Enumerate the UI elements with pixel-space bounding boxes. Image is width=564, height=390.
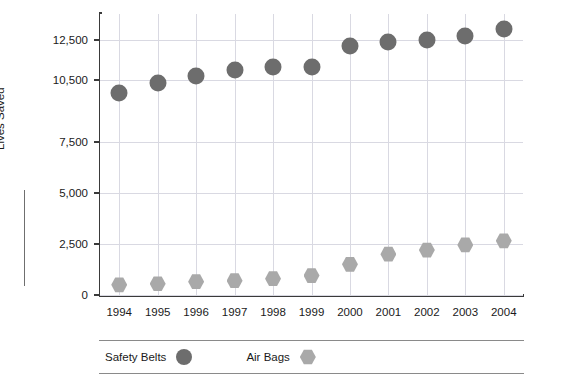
y-tick-label: 0 (0, 289, 88, 301)
y-tick-label: 10,500 (0, 74, 88, 86)
data-point-safety-belts (303, 59, 320, 76)
circle-marker-icon (176, 349, 192, 365)
y-tick-label: 2,500 (0, 238, 88, 250)
y-tick-label: 12,500 (0, 34, 88, 46)
data-point-safety-belts (226, 62, 243, 79)
data-point-safety-belts (495, 21, 512, 38)
data-point-safety-belts (111, 84, 128, 101)
gridline-vertical (312, 14, 313, 295)
y-tick-mark (94, 192, 99, 194)
data-point-safety-belts (341, 37, 358, 54)
gridline-vertical (119, 14, 120, 295)
gridline-vertical (504, 14, 505, 295)
x-tick-label: 2004 (491, 306, 517, 318)
data-point-safety-belts (265, 59, 282, 76)
gridline-vertical (350, 14, 351, 295)
y-tick-label: 7,500 (0, 136, 88, 148)
gridline-vertical (158, 14, 159, 295)
x-tick-label: 2002 (414, 306, 440, 318)
x-tick-label: 1997 (222, 306, 248, 318)
data-point-safety-belts (418, 31, 435, 48)
chart-container: Lives Saved 02,5005,0007,50010,50012,500… (0, 0, 564, 390)
chart-legend: Safety Belts Air Bags (99, 340, 524, 374)
legend-item-air-bags: Air Bags (246, 349, 315, 365)
y-tick-mark (94, 294, 99, 296)
gridline-vertical (273, 14, 274, 295)
gridline-horizontal (100, 295, 523, 296)
x-tick-label: 2001 (376, 306, 402, 318)
x-tick-label: 2003 (453, 306, 479, 318)
x-tick-label: 1995 (145, 306, 171, 318)
legend-item-safety-belts: Safety Belts (105, 349, 192, 365)
y-tick-mark (94, 141, 99, 143)
x-tick-label: 1998 (260, 306, 286, 318)
x-tick-label: 2000 (337, 306, 363, 318)
hexagon-marker-icon (300, 349, 316, 365)
y-tick-mark (94, 79, 99, 81)
data-point-safety-belts (457, 28, 474, 45)
gridline-vertical (465, 14, 466, 295)
y-tick-mark (94, 243, 99, 245)
legend-label-safety-belts: Safety Belts (105, 351, 166, 363)
gridline-vertical (235, 14, 236, 295)
y-tick-mark (94, 39, 99, 41)
x-tick-label: 1994 (106, 306, 132, 318)
legend-label-air-bags: Air Bags (246, 351, 289, 363)
plot-area (100, 14, 523, 295)
x-tick-label: 1999 (299, 306, 325, 318)
x-tick-label: 1996 (183, 306, 209, 318)
data-point-safety-belts (149, 75, 166, 92)
data-point-safety-belts (380, 33, 397, 50)
gridline-vertical (196, 14, 197, 295)
data-point-safety-belts (188, 68, 205, 85)
y-tick-label: 5,000 (0, 187, 88, 199)
